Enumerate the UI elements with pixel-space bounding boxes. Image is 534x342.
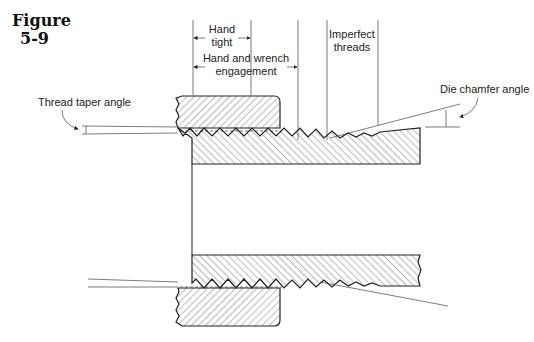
imperfect-label-2: threads [334, 41, 371, 53]
pipe-top-wall [178, 128, 420, 164]
taper-line-top-2 [82, 133, 178, 134]
taper-line-top-1 [82, 126, 178, 127]
thread-taper-leader [62, 110, 78, 129]
imperfect-label-1: Imperfect [329, 28, 375, 40]
fitting-top [176, 96, 280, 128]
wrench-label-1: Hand and wrench [203, 52, 289, 64]
pipe-thread-diagram: Hand tight Hand and wrench engagement Im… [0, 0, 534, 342]
die-chamfer-angle-label: Die chamfer angle [440, 83, 529, 95]
hand-tight-label-1: Hand [209, 23, 235, 35]
taper-line-bottom-1 [88, 279, 178, 282]
die-chamfer-leader [460, 98, 478, 117]
hand-tight-label-2: tight [212, 36, 233, 48]
pipe-bottom-wall [192, 255, 421, 288]
fitting-bottom [176, 288, 280, 326]
wrench-label-2: engagement [215, 65, 276, 77]
thread-taper-angle-label: Thread taper angle [38, 96, 131, 108]
